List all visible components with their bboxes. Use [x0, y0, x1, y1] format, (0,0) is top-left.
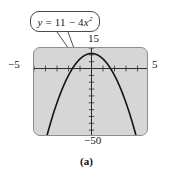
x-axis-max-label: 5 [152, 58, 158, 70]
plot-svg [34, 48, 148, 136]
y-axis-min-label: −50 [84, 134, 101, 146]
equation-callout-box: y = 11 − 4x2 [30, 11, 100, 32]
equation-constant: 11 [55, 16, 66, 28]
equation-lhs: y [37, 16, 42, 28]
x-axis-min-label: −5 [8, 58, 20, 70]
figure-graphing-calculator-screen: y = 11 − 4x2 15 −5 5 −50 [0, 0, 175, 180]
figure-caption: (a) [80, 155, 93, 167]
calculator-screen [33, 47, 148, 136]
equation-exponent: 2 [89, 15, 93, 23]
equation-text: y = 11 − 4x2 [37, 15, 92, 28]
equation-minus: − [69, 16, 75, 28]
y-axis-max-label: 15 [88, 32, 99, 44]
equation-equals: = [45, 16, 51, 28]
